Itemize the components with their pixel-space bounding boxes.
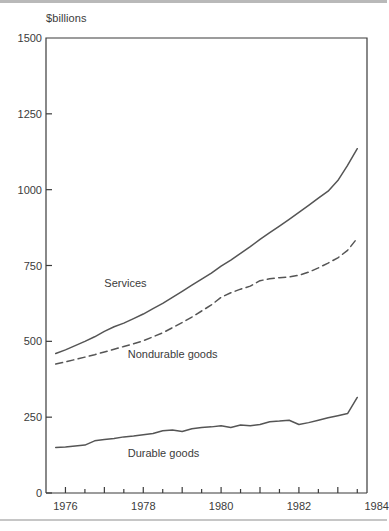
data-series-group xyxy=(56,149,358,448)
plot-frame xyxy=(46,38,367,493)
series-line-durable-goods xyxy=(56,397,358,447)
series-line-nondurable-goods xyxy=(56,238,358,364)
plot-border-path xyxy=(46,38,367,493)
series-line-services xyxy=(56,149,358,354)
axis-ticks xyxy=(46,114,357,493)
